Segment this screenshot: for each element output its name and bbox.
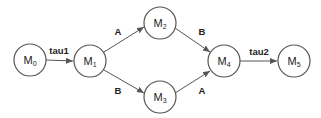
edge-m1-m2: A [104, 26, 144, 52]
edge-label-a-lower: A [199, 85, 206, 96]
node-m5: M5 [278, 45, 310, 77]
edge-label-b-upper: B [199, 26, 206, 37]
node-m3: M3 [144, 81, 176, 113]
edge-label-tau2: tau2 [249, 46, 269, 57]
edge-m2-m4: B [175, 26, 210, 52]
node-m4: M4 [208, 45, 240, 77]
edge-m4-m5: tau2 [240, 46, 277, 61]
node-m1: M1 [74, 45, 106, 77]
edge-m1-m3: B [104, 70, 144, 96]
edge-label-tau1: tau1 [49, 45, 69, 56]
state-diagram: tau1 A B B A tau2 M0 M1 M2 M3 M4 [0, 0, 321, 118]
edge-label-a-upper: A [115, 26, 122, 37]
edge-label-b-lower: B [115, 85, 122, 96]
edge-m0-m1: tau1 [46, 45, 73, 61]
edge-m3-m4: A [175, 71, 210, 96]
node-m0: M0 [14, 44, 46, 76]
node-m2: M2 [144, 7, 176, 39]
